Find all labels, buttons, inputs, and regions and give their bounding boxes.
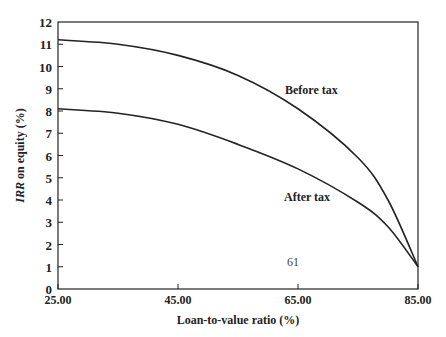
y-tick-label: 5 xyxy=(46,171,53,186)
y-tick-label: 10 xyxy=(39,60,52,75)
chart-container: 012345678910111225.0045.0065.0085.00Loan… xyxy=(0,0,446,337)
x-tick-label: 85.00 xyxy=(405,293,432,307)
y-tick-label: 7 xyxy=(46,126,53,141)
y-tick-label: 2 xyxy=(46,238,53,253)
y-tick-label: 12 xyxy=(39,15,52,30)
y-axis-label: IRR on equity (%) xyxy=(13,108,27,203)
after-tax-label: After tax xyxy=(284,190,330,204)
y-tick-label: 4 xyxy=(46,193,53,208)
y-tick-label: 8 xyxy=(46,104,53,119)
irr-chart: 012345678910111225.0045.0065.0085.00Loan… xyxy=(0,0,446,337)
after-tax-curve xyxy=(58,109,418,267)
before-tax-curve xyxy=(58,40,418,267)
before-tax-label: Before tax xyxy=(285,83,338,97)
x-axis-label: Loan-to-value ratio (%) xyxy=(177,313,300,327)
page-number: 61 xyxy=(287,255,299,269)
y-tick-label: 6 xyxy=(46,149,53,164)
x-tick-label: 65.00 xyxy=(285,293,312,307)
y-tick-label: 11 xyxy=(40,37,52,52)
plot-frame xyxy=(58,22,418,289)
y-tick-label: 9 xyxy=(46,82,53,97)
x-tick-label: 45.00 xyxy=(165,293,192,307)
y-tick-label: 3 xyxy=(46,215,53,230)
y-tick-label: 1 xyxy=(46,260,53,275)
x-tick-label: 25.00 xyxy=(45,293,72,307)
